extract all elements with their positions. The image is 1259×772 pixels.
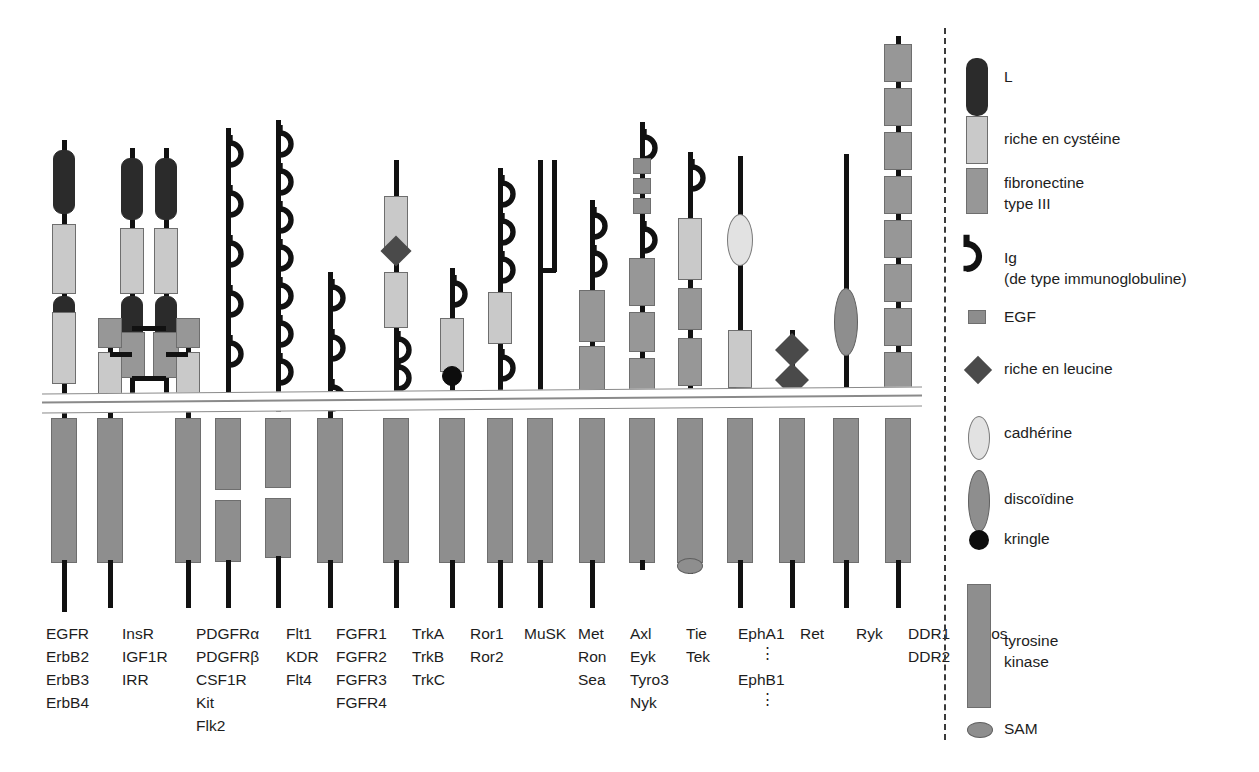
receptor-name: EGFR: [46, 622, 89, 645]
ig-domain: [226, 334, 256, 368]
legend-item-fibronectin-iii: fibronectinetype III: [960, 168, 1084, 214]
receptor-name: MuSK: [524, 622, 566, 645]
fibronectin-iii-domain: [884, 88, 912, 126]
ig-domain: [450, 274, 480, 308]
L-domain: [53, 150, 75, 214]
chain-segment: [62, 560, 67, 612]
legend-label-line: fibronectine: [1004, 172, 1084, 193]
legend-label: SAM: [1004, 718, 1038, 739]
legend-label-line: tyrosine: [1004, 630, 1058, 651]
tyrosine-kinase-domain: [215, 418, 241, 490]
receptor-name: Ryk: [856, 622, 883, 645]
cysteine-rich-domain: [384, 272, 408, 328]
egf-domain: [633, 158, 651, 174]
disulfide-bond: [110, 352, 132, 357]
receptor-name: EphB1: [738, 668, 785, 691]
fibronectin-iii-domain: [629, 312, 655, 352]
tyrosine-kinase-domain: [527, 418, 553, 563]
receptor-name: TrkC: [412, 668, 445, 691]
receptor-family-labels-pdgfr: PDGFRαPDGFRβCSF1RKitFlk2: [196, 622, 259, 737]
legend-label: riche en leucine: [1004, 358, 1113, 379]
ig-domain: [276, 314, 306, 348]
tyrosine-kinase-domain: [439, 418, 465, 563]
legend-label-line: type III: [1004, 193, 1084, 214]
L-domain: [155, 158, 177, 220]
receptor-name: IRR: [122, 668, 168, 691]
tyrosine-kinase-domain: [629, 418, 655, 563]
receptor-family-labels-musk: MuSK: [524, 622, 566, 645]
ig-domain: [276, 238, 306, 272]
legend-item-leucine-rich: riche en leucine: [960, 358, 1113, 379]
disulfide-bond: [132, 326, 166, 331]
fibronectin-iii-domain: [884, 352, 912, 390]
ig-domain: [226, 184, 256, 218]
chain-segment: [552, 160, 557, 272]
egf-domain: [633, 178, 651, 194]
cysteine-rich-domain: [52, 312, 76, 384]
receptor-family-labels-ryk: Ryk: [856, 622, 883, 645]
leucine-rich-domain: [775, 333, 809, 367]
receptor-name: Eyk: [630, 645, 669, 668]
ig-domain: [640, 128, 670, 162]
family-continuation-dots: ⋮: [738, 645, 785, 668]
receptor-name: KDR: [286, 645, 319, 668]
receptor-name: PDGFRα: [196, 622, 259, 645]
ig-domain: [276, 352, 306, 386]
tyrosine-kinase-domain: [317, 418, 343, 563]
cysteine-rich-domain: [728, 330, 752, 388]
receptor-name: Ron: [578, 645, 606, 668]
legend-label: L: [1004, 58, 1013, 87]
receptor-family-labels-egfr: EGFRErbB2ErbB3ErbB4: [46, 622, 89, 714]
chain-segment: [186, 560, 191, 608]
receptor-family-labels-flt1: Flt1KDRFlt4: [286, 622, 319, 691]
receptor-name: ErbB4: [46, 691, 89, 714]
ig-domain: [276, 124, 306, 158]
receptor-name: CSF1R: [196, 668, 259, 691]
disulfide-bond: [166, 352, 188, 357]
legend-label-line: kringle: [1004, 528, 1050, 549]
legend-label: fibronectinetype III: [1004, 168, 1084, 214]
receptor-family-labels-eph: EphA1⋮EphB1⋮: [738, 622, 785, 714]
receptor-name: ErbB3: [46, 668, 89, 691]
chain-segment: [844, 154, 849, 396]
cysteine-rich-domain: [176, 352, 200, 398]
legend-label-line: cadhérine: [1004, 422, 1072, 443]
tyrosine-kinase-domain: [51, 418, 77, 563]
rtk-diagram: EGFRErbB2ErbB3ErbB4InsRIGF1RIRRPDGFRαPDG…: [0, 0, 1259, 772]
legend-label: riche en cystéine: [1004, 116, 1120, 149]
receptor-name: Flt4: [286, 668, 319, 691]
sam-domain: [677, 558, 703, 574]
tyrosine-kinase-domain: [487, 418, 513, 563]
tyrosine-kinase-domain: [97, 418, 123, 563]
receptor-family-labels-axl: AxlEykTyro3Nyk: [630, 622, 669, 714]
legend-label-line: EGF: [1004, 306, 1036, 327]
ig-domain: [498, 348, 528, 382]
chain-segment: [538, 560, 543, 608]
receptor-name: TrkB: [412, 645, 445, 668]
tyrosine-kinase-domain: [175, 418, 201, 563]
cysteine-rich-domain: [52, 224, 76, 294]
chain-segment: [738, 560, 743, 608]
legend-item-sam-domain: SAM: [960, 718, 1038, 739]
receptor-name: FGFR2: [336, 645, 387, 668]
legend-item-tyrosine-kinase: tyrosinekinase: [960, 584, 1058, 672]
receptor-name: IGF1R: [122, 645, 168, 668]
tyrosine-kinase-domain: [215, 500, 241, 562]
family-continuation-dots: ⋮: [738, 691, 785, 714]
chain-segment: [226, 560, 231, 608]
tyrosine-kinase-domain: [779, 418, 805, 563]
disulfide-bond: [132, 376, 166, 381]
cysteine-rich-domain: [678, 218, 702, 280]
ig-domain: [226, 134, 256, 168]
ig-domain: [226, 234, 256, 268]
receptor-name: Sea: [578, 668, 606, 691]
legend-item-kringle: kringle: [960, 528, 1050, 549]
legend-label-line: riche en cystéine: [1004, 128, 1120, 149]
receptor-name: Axl: [630, 622, 669, 645]
plasma-membrane: [42, 387, 922, 414]
legend-item-ig-domain: Ig(de type immunoglobuline): [960, 233, 1187, 289]
receptor-family-labels-tie: TieTek: [686, 622, 710, 668]
fibronectin-iii-domain: [884, 308, 912, 346]
cysteine-rich-domain: [98, 352, 122, 398]
receptor-name: FGFR3: [336, 668, 387, 691]
